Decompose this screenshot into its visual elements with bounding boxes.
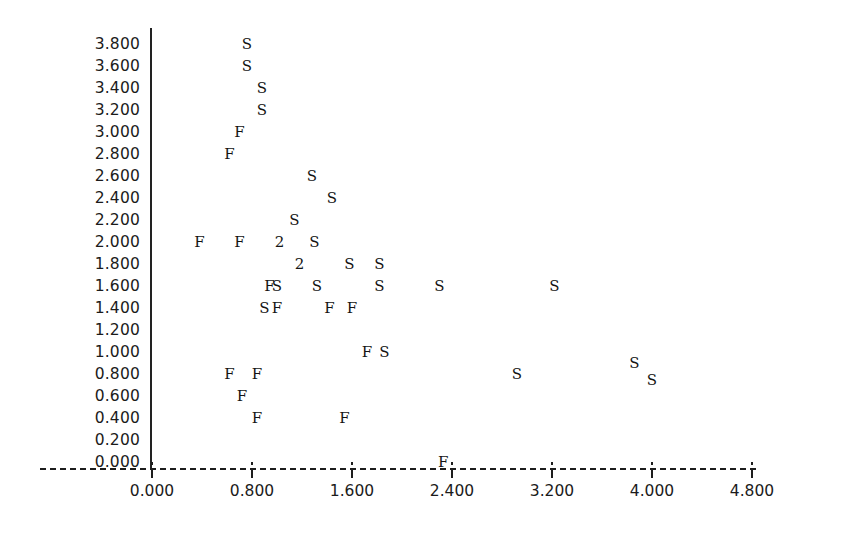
y-axis-tick-label: 1.000 [70,345,140,361]
y-axis-tick-label: 2.000 [70,235,140,251]
x-axis-tick-mark [151,469,153,478]
y-axis-tick-label: 0.200 [70,433,140,449]
data-point-marker-f: F [234,235,244,250]
data-point-marker-s: S [434,279,444,294]
y-axis-tick-label: 3.200 [70,103,140,119]
y-axis-tick-label: 0.800 [70,367,140,383]
y-axis-tick-label: 2.200 [70,213,140,229]
y-axis-tick-label: 2.400 [70,191,140,207]
data-point-marker-s: S [379,345,389,360]
data-point-marker-f: F [252,367,262,382]
dashed-horizontal-axis [40,468,756,470]
data-point-marker-f: F [194,235,204,250]
data-point-marker-s: S [374,279,384,294]
character-scatter-plot: 3.8003.6003.4003.2003.0002.8002.6002.400… [0,0,848,545]
data-point-marker-s: S [257,81,267,96]
data-point-marker-s: S [344,257,354,272]
x-axis-tick-label: 0.800 [230,484,274,500]
y-axis-tick-label: 2.800 [70,147,140,163]
x-axis-tick-label: 3.200 [530,484,574,500]
x-axis-tick-mark [651,469,653,478]
x-axis-tick-mark [251,469,253,478]
x-axis-tick-mark [451,469,453,478]
data-point-marker-f: F [264,279,274,294]
x-axis-tick-mark [751,469,753,478]
x-axis-tick-label: 4.800 [730,484,774,500]
x-axis-tick-label: 4.000 [630,484,674,500]
data-point-marker-s: S [312,279,322,294]
data-point-marker-s: S [259,301,269,316]
y-axis-tick-label: 0.600 [70,389,140,405]
data-point-marker-s: S [549,279,559,294]
data-point-marker-f: F [234,125,244,140]
data-point-marker-s: S [309,235,319,250]
data-point-marker-s: S [647,372,657,387]
data-point-marker-f: F [237,389,247,404]
data-point-marker-f: F [324,301,334,316]
data-point-marker-s: S [374,257,384,272]
y-axis-tick-label: 1.800 [70,257,140,273]
y-axis-tick-label: 3.800 [70,37,140,53]
x-axis-tick-mark [551,469,553,478]
data-point-marker-2: 2 [295,257,305,272]
data-point-marker-f: F [224,367,234,382]
y-axis-tick-label: 2.600 [70,169,140,185]
data-point-marker-s: S [512,367,522,382]
data-point-marker-2: 2 [275,235,285,250]
y-axis-tick-label: 0.400 [70,411,140,427]
y-axis-tick-label: 3.400 [70,81,140,97]
y-axis-tick-label: 3.000 [70,125,140,141]
data-point-marker-s: S [327,191,337,206]
x-axis-tick-mark [351,469,353,478]
data-point-marker-s: S [242,59,252,74]
data-point-marker-f: F [252,411,262,426]
data-point-marker-f: F [362,345,372,360]
data-point-marker-s: S [307,169,317,184]
data-point-marker-s: S [629,356,639,371]
data-point-marker-f: F [339,411,349,426]
data-point-marker-s: S [242,37,252,52]
y-axis-tick-label: 1.200 [70,323,140,339]
y-axis-tick-label: 1.400 [70,301,140,317]
data-point-marker-s: S [289,213,299,228]
data-point-marker-f: F [272,301,282,316]
x-axis-tick-label: 1.600 [330,484,374,500]
data-point-marker-f: F [347,301,357,316]
y-axis-tick-label: 1.600 [70,279,140,295]
vertical-axis-rule [150,28,152,470]
y-axis-tick-label: 3.600 [70,59,140,75]
data-point-marker-f: F [224,147,234,162]
data-point-marker-s: S [257,103,267,118]
x-axis-tick-label: 2.400 [430,484,474,500]
x-axis-tick-label: 0.000 [130,484,174,500]
y-axis-label-group: 3.8003.6003.4003.2003.0002.8002.6002.400… [70,0,140,545]
